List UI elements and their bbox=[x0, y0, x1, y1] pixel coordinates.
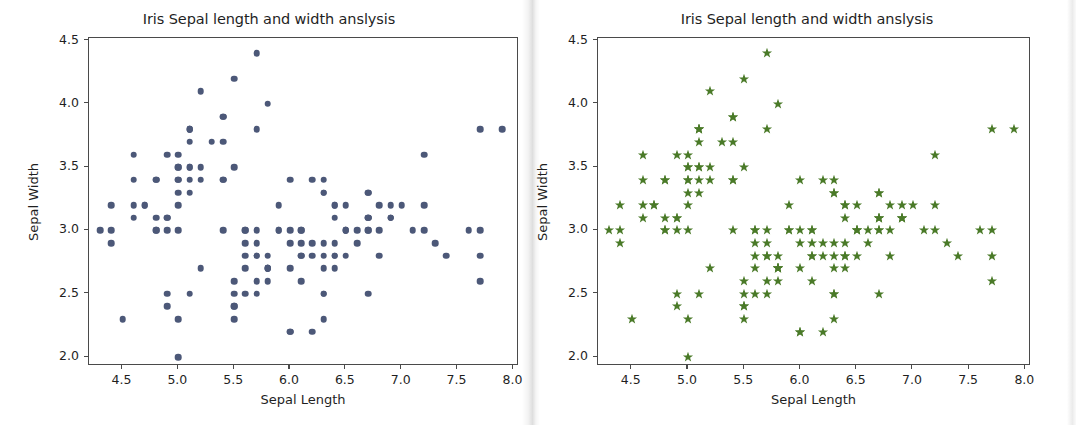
data-point-star bbox=[604, 225, 615, 236]
x-tick-label: 7.5 bbox=[946, 372, 990, 387]
data-point-dot bbox=[331, 202, 338, 209]
x-tick-mark bbox=[911, 365, 912, 369]
data-point-star bbox=[682, 174, 693, 185]
data-point-dot bbox=[164, 303, 171, 310]
data-point-dot bbox=[465, 227, 472, 234]
data-point-star bbox=[739, 73, 750, 84]
chart-title-right: Iris Sepal length and width anslysis bbox=[538, 11, 1076, 27]
data-point-star bbox=[840, 250, 851, 261]
data-point-star bbox=[637, 200, 648, 211]
y-tick-mark bbox=[593, 166, 597, 167]
x-tick-mark bbox=[177, 365, 178, 369]
data-point-dot bbox=[320, 291, 327, 298]
data-point-star bbox=[795, 326, 806, 337]
x-tick-mark bbox=[344, 365, 345, 369]
data-point-star bbox=[682, 314, 693, 325]
data-point-star bbox=[671, 301, 682, 312]
data-point-star bbox=[761, 225, 772, 236]
data-point-dot bbox=[432, 240, 439, 247]
data-point-star bbox=[817, 250, 828, 261]
data-point-star bbox=[750, 263, 761, 274]
data-point-dot bbox=[175, 227, 182, 234]
y-tick-label: 2.0 bbox=[38, 348, 79, 363]
data-point-dot bbox=[376, 253, 383, 260]
data-point-star bbox=[885, 250, 896, 261]
data-point-dot bbox=[376, 227, 383, 234]
data-point-star bbox=[750, 238, 761, 249]
data-point-dot bbox=[242, 253, 249, 260]
data-point-dot bbox=[309, 177, 316, 184]
data-point-star bbox=[761, 288, 772, 299]
data-point-star bbox=[986, 124, 997, 135]
data-point-dot bbox=[186, 164, 193, 171]
data-point-dot bbox=[108, 240, 115, 247]
data-point-star bbox=[761, 124, 772, 135]
data-point-star bbox=[795, 238, 806, 249]
data-point-dot bbox=[164, 151, 171, 158]
data-point-star bbox=[784, 200, 795, 211]
data-point-dot bbox=[387, 215, 394, 222]
data-point-dot bbox=[264, 101, 271, 108]
y-tick-label: 4.5 bbox=[38, 32, 79, 47]
data-point-star bbox=[739, 288, 750, 299]
data-point-star bbox=[682, 149, 693, 160]
data-point-star bbox=[750, 288, 761, 299]
data-point-star bbox=[784, 225, 795, 236]
x-tick-label: 5.5 bbox=[721, 372, 765, 387]
data-point-star bbox=[862, 238, 873, 249]
data-point-star bbox=[806, 276, 817, 287]
data-point-star bbox=[761, 250, 772, 261]
data-point-star bbox=[806, 238, 817, 249]
data-point-dot bbox=[242, 291, 249, 298]
data-point-star bbox=[896, 200, 907, 211]
data-point-dot bbox=[298, 227, 305, 234]
data-point-dot bbox=[331, 253, 338, 260]
data-point-dot bbox=[197, 177, 204, 184]
data-point-dot bbox=[264, 253, 271, 260]
data-point-star bbox=[772, 276, 783, 287]
data-point-dot bbox=[175, 177, 182, 184]
data-point-dot bbox=[175, 189, 182, 196]
data-point-dot bbox=[231, 164, 238, 171]
data-point-dot bbox=[331, 265, 338, 272]
data-point-dot bbox=[443, 253, 450, 260]
data-point-dot bbox=[130, 177, 137, 184]
data-point-dot bbox=[365, 215, 372, 222]
x-tick-mark bbox=[456, 365, 457, 369]
data-point-dot bbox=[231, 316, 238, 323]
data-point-dot bbox=[220, 177, 227, 184]
data-point-dot bbox=[264, 265, 271, 272]
data-point-star bbox=[795, 225, 806, 236]
data-point-dot bbox=[376, 202, 383, 209]
data-point-star bbox=[986, 276, 997, 287]
data-point-star bbox=[930, 225, 941, 236]
x-tick-label: 7.5 bbox=[435, 372, 479, 387]
data-point-dot bbox=[477, 253, 484, 260]
data-point-dot bbox=[242, 240, 249, 247]
data-point-star bbox=[840, 212, 851, 223]
data-point-dot bbox=[343, 202, 350, 209]
x-tick-mark bbox=[233, 365, 234, 369]
data-point-star bbox=[694, 187, 705, 198]
data-point-dot bbox=[108, 202, 115, 209]
data-point-star bbox=[694, 288, 705, 299]
x-tick-label: 7.0 bbox=[379, 372, 423, 387]
x-tick-mark bbox=[743, 365, 744, 369]
data-point-star bbox=[761, 276, 772, 287]
x-tick-label: 6.0 bbox=[777, 372, 821, 387]
x-tick-mark bbox=[855, 365, 856, 369]
data-point-star bbox=[739, 276, 750, 287]
data-point-star bbox=[694, 162, 705, 173]
y-tick-label: 3.5 bbox=[547, 158, 588, 173]
data-point-dot bbox=[320, 265, 327, 272]
data-point-dot bbox=[276, 227, 283, 234]
data-point-star bbox=[660, 174, 671, 185]
plot-area-right bbox=[597, 37, 1030, 365]
data-point-star bbox=[705, 86, 716, 97]
data-point-dot bbox=[477, 278, 484, 285]
data-point-star bbox=[772, 250, 783, 261]
data-point-star bbox=[671, 225, 682, 236]
y-axis-label-right: Sepal Width bbox=[535, 163, 550, 241]
data-point-dot bbox=[130, 202, 137, 209]
data-point-star bbox=[694, 124, 705, 135]
